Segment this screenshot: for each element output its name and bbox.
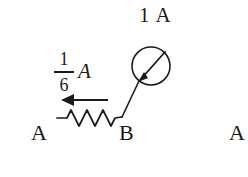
branch-current-unit-label: A (78, 61, 91, 82)
fraction-numerator: 1 (54, 50, 74, 70)
fraction-denominator: 6 (54, 75, 74, 94)
fraction-bar (54, 71, 74, 73)
branch-current-fraction: 1 6 (54, 50, 74, 94)
node-label-a-right: A (229, 122, 245, 144)
circuit-diagram-figure: 1 A 1 6 A A B A (0, 0, 248, 177)
wire-node-b-to-meter (122, 81, 139, 117)
total-current-label: 1 A (139, 5, 172, 26)
resistor-zigzag-icon (57, 110, 122, 126)
circuit-drawing (0, 0, 248, 177)
node-label-a-left: A (31, 122, 47, 144)
current-arrow-head-icon (61, 94, 74, 106)
node-label-b: B (119, 122, 134, 144)
